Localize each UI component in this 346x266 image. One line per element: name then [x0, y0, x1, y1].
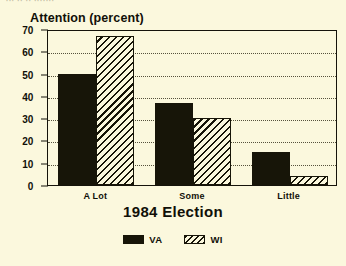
- gridline-60: [48, 53, 336, 54]
- legend-item-wi: WI: [184, 234, 222, 245]
- y-tick-mark-40: [41, 96, 48, 97]
- plot-area: [47, 30, 337, 186]
- x-category-label-a-lot: A Lot: [83, 191, 107, 201]
- y-tick-label-20: 20: [7, 136, 33, 147]
- y-tick-label-60: 60: [7, 47, 33, 58]
- bar-wi-some: [193, 118, 231, 185]
- bar-wi-little: [290, 176, 328, 185]
- y-tick-label-10: 10: [7, 158, 33, 169]
- legend: VAWI: [0, 234, 346, 245]
- y-tick-label-40: 40: [7, 91, 33, 102]
- x-category-label-some: Some: [179, 191, 204, 201]
- y-tick-mark-50: [41, 74, 48, 75]
- y-tick-label-0: 0: [7, 181, 33, 192]
- legend-label-wi: WI: [210, 234, 222, 245]
- y-tick-mark-60: [41, 52, 48, 53]
- bar-va-little: [252, 152, 290, 185]
- bar-chart: Attention (percent) 010203040506070 A Lo…: [0, 0, 346, 266]
- bar-wi-a-lot: [96, 36, 134, 185]
- y-tick-mark-10: [41, 163, 48, 164]
- y-tick-mark-20: [41, 141, 48, 142]
- bar-va-a-lot: [58, 74, 96, 185]
- bar-va-some: [155, 103, 193, 185]
- y-tick-label-30: 30: [7, 114, 33, 125]
- y-tick-label-70: 70: [7, 25, 33, 36]
- legend-swatch-va-icon: [123, 235, 144, 244]
- y-tick-mark-70: [41, 30, 48, 31]
- x-axis-title: 1984 Election: [0, 203, 346, 220]
- legend-swatch-wi-icon: [184, 235, 205, 244]
- y-axis-title: Attention (percent): [30, 11, 144, 25]
- legend-item-va: VA: [123, 234, 162, 245]
- x-category-label-little: Little: [277, 191, 300, 201]
- y-tick-mark-0: [41, 186, 48, 187]
- y-tick-mark-30: [41, 119, 48, 120]
- legend-label-va: VA: [149, 234, 162, 245]
- y-tick-label-50: 50: [7, 69, 33, 80]
